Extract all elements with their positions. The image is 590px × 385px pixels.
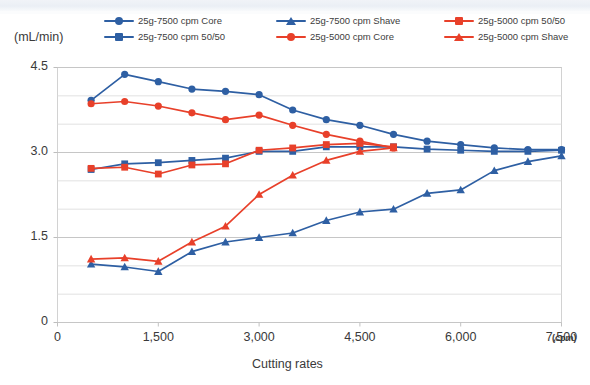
x-tick-label: 4,500 <box>330 330 390 344</box>
y-tick-label: 0 <box>8 314 48 328</box>
data-point-square <box>256 147 263 154</box>
series-triangle <box>87 144 398 265</box>
series-square <box>88 140 397 177</box>
chart-page: 25g-7500 cpm Core25g-7500 cpm Shave25g-5… <box>0 0 590 385</box>
data-point-circle <box>188 85 195 92</box>
data-point-circle <box>188 109 195 116</box>
chart-canvas <box>0 0 590 385</box>
series-line <box>91 74 561 149</box>
data-point-circle <box>323 131 330 138</box>
data-point-square <box>323 141 330 148</box>
data-point-square <box>155 159 162 166</box>
data-point-circle <box>121 71 128 78</box>
data-point-square <box>222 160 229 167</box>
data-point-square <box>189 162 196 169</box>
series-line <box>91 143 393 174</box>
y-tick-label: 4.5 <box>8 59 48 73</box>
y-tick-marks <box>54 68 58 323</box>
x-tick-label: 6,000 <box>431 330 491 344</box>
series-triangle <box>87 152 566 275</box>
x-tick-label: 1,500 <box>128 330 188 344</box>
y-tick-label: 3.0 <box>8 144 48 158</box>
data-point-square <box>491 148 498 155</box>
series-circle <box>88 71 566 154</box>
data-point-triangle <box>188 238 196 246</box>
data-point-circle <box>88 100 95 107</box>
x-tick-marks <box>58 323 562 327</box>
data-point-square <box>88 165 95 172</box>
data-point-circle <box>323 116 330 123</box>
data-point-circle <box>289 122 296 129</box>
data-point-square <box>121 164 128 171</box>
data-point-circle <box>222 116 229 123</box>
data-point-square <box>155 171 162 178</box>
data-point-square <box>457 147 464 154</box>
grid-lines <box>58 68 562 323</box>
x-tick-label: 3,000 <box>229 330 289 344</box>
data-point-circle <box>222 88 229 95</box>
data-point-circle <box>289 106 296 113</box>
y-tick-label: 1.5 <box>8 229 48 243</box>
data-point-circle <box>155 78 162 85</box>
series-line <box>91 102 393 148</box>
data-point-square <box>357 140 364 147</box>
data-point-circle <box>155 102 162 109</box>
data-point-circle <box>390 131 397 138</box>
data-point-circle <box>356 122 363 129</box>
data-point-triangle <box>255 190 263 198</box>
x-axis-title: Cutting rates <box>252 357 323 371</box>
data-point-circle <box>424 138 431 145</box>
data-point-square <box>289 145 296 152</box>
x-tick-label: 0 <box>28 330 88 344</box>
x-axis-unit: (cpm) <box>552 333 577 343</box>
series-line <box>91 148 393 261</box>
data-point-square <box>424 146 431 153</box>
data-point-circle <box>121 98 128 105</box>
data-point-circle <box>256 91 263 98</box>
data-point-circle <box>256 112 263 119</box>
data-point-square <box>525 148 532 155</box>
